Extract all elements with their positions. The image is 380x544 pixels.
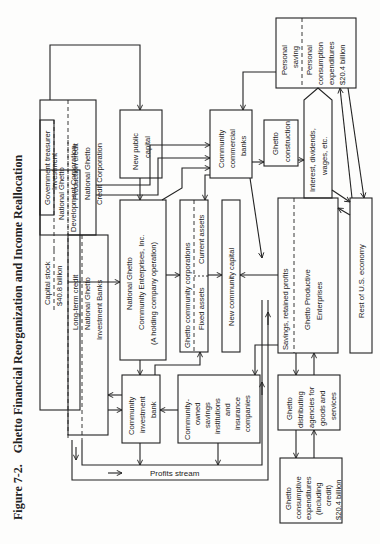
pc-label-4: $20.4 billion bbox=[338, 44, 347, 85]
gd-label-3: agencies for bbox=[307, 386, 316, 428]
gce-label-2: consumptive bbox=[294, 476, 303, 519]
gc-label-1: Ghetto bbox=[271, 132, 280, 155]
gd-label-1: Ghetto bbox=[285, 397, 294, 420]
ngcc-label-1: National Ghetto bbox=[83, 147, 92, 200]
ccb-label-3: banks bbox=[239, 136, 248, 156]
ngce-label-1: National Ghetto bbox=[125, 257, 134, 310]
gce-label-4: (including bbox=[314, 482, 323, 515]
arrow-ngce-to-banks bbox=[162, 168, 210, 200]
profits-stream-label: Profits stream bbox=[150, 469, 200, 478]
figure-number: Figure 7-2. bbox=[11, 464, 25, 520]
arrow-banks-to-productive bbox=[250, 178, 262, 258]
ncc-label: New community capital bbox=[227, 248, 236, 326]
fixed-assets-label: Fixed assets bbox=[197, 287, 206, 330]
ccb-label-1: Community bbox=[217, 129, 226, 168]
roe-label: Rest of U.S. economy bbox=[357, 244, 366, 318]
production-credit-label: Production credit bbox=[71, 142, 80, 200]
gce-label-3: expenditures bbox=[304, 476, 313, 520]
gpe-label-2: Enterprises bbox=[315, 281, 324, 320]
investment-label: Investment bbox=[50, 152, 59, 190]
gcc-label: Ghetto community corporations bbox=[183, 242, 192, 348]
ngce-label-3: (A holding company operation) bbox=[149, 242, 158, 345]
arrow-saving-to-banks bbox=[243, 72, 276, 110]
gce-label-1: Ghetto bbox=[284, 487, 293, 510]
gd-label-5: services bbox=[329, 392, 338, 420]
ngib-label-2: Investment Banks bbox=[95, 279, 104, 340]
ccb-label-2: commercial bbox=[228, 129, 237, 168]
cs-label-1: Community- bbox=[183, 399, 192, 440]
arrow-interest-to-economy bbox=[332, 190, 350, 202]
ps-label-2: saving bbox=[291, 46, 300, 68]
figure-title: Figure 7-2. Ghetto Financial Reorganizat… bbox=[11, 155, 25, 520]
cs-label-6: insurance bbox=[233, 397, 242, 430]
gpe-label-1: Ghetto Productive bbox=[303, 269, 312, 330]
gce-label-5: credit) bbox=[324, 484, 333, 506]
pc-label-3: expenditures bbox=[327, 41, 336, 85]
pc-label-2: consumption bbox=[316, 42, 325, 85]
ngib-label-1: National Ghetto bbox=[83, 277, 92, 330]
capital-stock-label-2: $40.8 billion bbox=[55, 265, 64, 306]
ghetto-construction-box bbox=[264, 120, 298, 166]
cib-label-1: Community bbox=[127, 396, 136, 435]
ngcc-label-2: Credit Corporation bbox=[95, 143, 104, 205]
new-public-capital-label-1: New public bbox=[131, 133, 140, 170]
current-assets-label: Current assets bbox=[197, 214, 206, 264]
arrow-productive-to-savings bbox=[255, 345, 278, 375]
id-label-1: Interest, dividends, bbox=[308, 128, 317, 192]
arrow-credit-to-banks-1 bbox=[96, 145, 210, 185]
cs-label-3: savings bbox=[203, 402, 212, 428]
new-public-capital-box bbox=[120, 110, 162, 178]
ps-label-1: Personal bbox=[280, 45, 289, 75]
cib-label-2: investment bbox=[138, 395, 147, 433]
arrow-banks-to-current bbox=[205, 175, 210, 200]
srp-label: Savings, retained profits bbox=[281, 268, 290, 350]
capital-stock-label-1: Capital stock bbox=[43, 261, 52, 305]
gc-label-2: construction bbox=[283, 121, 292, 162]
arrow-credit-to-banks-2 bbox=[96, 158, 210, 195]
id-label-2: wages, etc. bbox=[320, 137, 329, 176]
ngce-label-2: Community Enterprises, Inc. bbox=[137, 235, 146, 330]
cs-label-2: owned bbox=[193, 403, 202, 425]
gd-label-2: distributing bbox=[296, 391, 305, 428]
arrow-cib-to-fixed bbox=[155, 352, 200, 375]
pc-label-1: Personal bbox=[305, 45, 314, 75]
arrow-economy-to-interest bbox=[338, 208, 350, 215]
flow-diagram: Figure 7-2. Ghetto Financial Reorganizat… bbox=[0, 0, 380, 544]
cib-label-3: bank bbox=[149, 401, 158, 418]
cs-label-7: companies bbox=[243, 395, 252, 432]
gce-label-6: $20.4 billion bbox=[334, 479, 343, 520]
cs-label-5: and bbox=[223, 403, 232, 416]
gd-label-4: goods and bbox=[318, 391, 327, 426]
figure-title-text: Ghetto Financial Reorganization and Inco… bbox=[11, 155, 25, 454]
cs-label-4: institutions bbox=[213, 398, 222, 434]
new-public-capital-label-2: capital bbox=[143, 136, 152, 158]
